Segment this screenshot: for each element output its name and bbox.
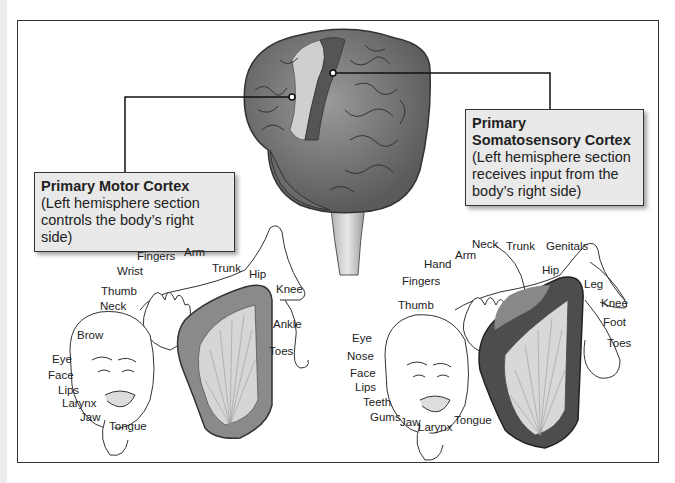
sensory-label-nose: Nose [347, 350, 374, 362]
motor-cortex-desc-line1: (Left hemisphere section [41, 195, 228, 212]
sensory-label-trunk: Trunk [506, 240, 535, 252]
somatosensory-desc-line2: receives input from the [472, 166, 637, 183]
sensory-label-leg: Leg [584, 278, 603, 290]
somatosensory-desc-line3: body’s right side) [472, 183, 637, 200]
sensory-label-thumb: Thumb [398, 299, 434, 311]
motor-label-knee: Knee [276, 283, 303, 295]
motor-label-fingers: Fingers [137, 250, 175, 262]
sensory-label-face: Face [350, 367, 376, 379]
motor-label-brow: Brow [77, 329, 103, 341]
motor-label-face: Face [48, 369, 74, 381]
motor-label-ankle: Ankle [273, 318, 302, 330]
motor-label-neck: Neck [100, 300, 126, 312]
motor-label-wrist: Wrist [117, 265, 143, 277]
sensory-label-genitals: Genitals [546, 240, 588, 252]
motor-cortex-slice [178, 285, 273, 438]
sensory-label-lips: Lips [355, 381, 376, 393]
sensory-label-fingers: Fingers [402, 275, 440, 287]
motor-label-lips: Lips [58, 384, 79, 396]
sensory-label-eye: Eye [352, 332, 372, 344]
motor-label-hip: Hip [249, 268, 266, 280]
motor-cortex-desc-line2: controls the body’s right side) [41, 212, 228, 246]
sensory-label-knee: Knee [601, 297, 628, 309]
sensory-label-foot: Foot [603, 316, 626, 328]
motor-label-jaw: Jaw [80, 411, 100, 423]
sensory-label-toes: Toes [607, 337, 631, 349]
motor-label-larynx: Larynx [62, 397, 97, 409]
sensory-label-gums: Gums [370, 411, 401, 423]
somatosensory-title-line2: Somatosensory Cortex [472, 132, 637, 149]
motor-label-trunk: Trunk [212, 262, 241, 274]
sensory-label-larynx: Larynx [418, 421, 453, 433]
motor-label-eye: Eye [52, 353, 72, 365]
motor-label-thumb: Thumb [101, 285, 137, 297]
motor-label-tongue: Tongue [109, 420, 147, 432]
sensory-label-hip: Hip [542, 264, 559, 276]
somatosensory-desc-line1: (Left hemisphere section [472, 149, 637, 166]
sensory-label-teeth: Teeth [363, 396, 391, 408]
somatosensory-cortex-callout: Primary Somatosensory Cortex (Left hemis… [465, 109, 644, 206]
sensory-label-arm: Arm [455, 249, 476, 261]
motor-cortex-title: Primary Motor Cortex [41, 178, 228, 195]
motor-label-toes: Toes [269, 345, 293, 357]
sensory-label-tongue: Tongue [454, 414, 492, 426]
sensory-label-hand: Hand [424, 258, 452, 270]
brain-illustration [244, 29, 430, 213]
motor-cortex-callout: Primary Motor Cortex (Left hemisphere se… [34, 172, 235, 252]
motor-label-arm: Arm [184, 246, 205, 258]
somatosensory-title-line1: Primary [472, 115, 637, 132]
